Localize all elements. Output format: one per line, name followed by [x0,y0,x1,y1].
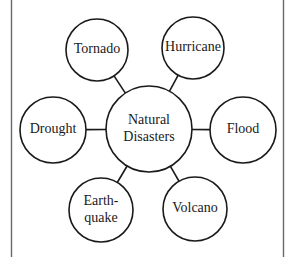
node-flood: Flood [210,97,276,163]
connector-tornado [114,76,125,93]
node-drought-label: Drought [30,121,77,136]
node-drought: Drought [20,97,86,163]
node-center-natural-disasters: NaturalDisasters [106,86,192,172]
node-volcano: Volcano [163,177,227,241]
node-volcano-label: Volcano [172,200,218,215]
node-center-natural-disasters-label: Natural [128,112,170,127]
node-hurricane: Hurricane [162,17,224,79]
node-tornado: Tornado [66,19,128,81]
concept-nodes: TornadoHurricaneDroughtFloodEarth-quakeV… [20,17,276,242]
connector-earthquake [117,166,127,182]
node-earthquake: Earth-quake [69,178,133,242]
connector-hurricane [170,75,179,91]
node-center-natural-disasters-label: Disasters [123,129,174,144]
node-earthquake-label: Earth- [84,193,119,208]
node-tornado-label: Tornado [74,41,120,56]
node-hurricane-label: Hurricane [165,39,221,54]
concept-web-diagram: TornadoHurricaneDroughtFloodEarth-quakeV… [0,0,291,257]
node-earthquake-label: quake [84,210,117,225]
connector-volcano [170,166,179,181]
node-flood-label: Flood [227,121,260,136]
